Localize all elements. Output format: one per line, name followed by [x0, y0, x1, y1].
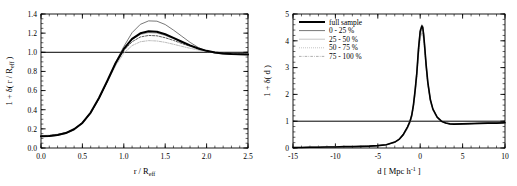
data-curve	[293, 25, 505, 148]
x-tick-label: -5	[375, 152, 382, 161]
left-x-axis-title: r / Reff	[134, 166, 156, 177]
y-tick-label: 1	[285, 117, 289, 126]
x-tick-label: 5	[461, 152, 465, 161]
y-tick-label: 3	[285, 63, 289, 72]
y-tick-label: 0.2	[28, 125, 38, 134]
y-tick-label: 0.0	[28, 144, 38, 153]
right-plot-svg: -15-10-50510012345full sample0 - 25 %25 …	[258, 0, 517, 186]
figure-container: 0.00.51.01.52.02.50.00.20.40.60.81.01.21…	[0, 0, 517, 186]
data-curve	[293, 28, 505, 148]
data-curve	[41, 35, 248, 136]
right-x-axis-title: d [ Mpc h-1 ]	[377, 166, 420, 176]
data-curve	[41, 33, 248, 137]
legend-label-4: 75 - 100 %	[329, 52, 362, 61]
y-tick-label: 4	[285, 37, 289, 46]
y-tick-label: 1.4	[28, 10, 38, 19]
data-curve	[293, 30, 505, 147]
left-plot-panel: 0.00.51.01.52.02.50.00.20.40.60.81.01.21…	[0, 0, 260, 186]
x-tick-label: 0	[418, 152, 422, 161]
left-plot-svg: 0.00.51.01.52.02.50.00.20.40.60.81.01.21…	[0, 0, 260, 186]
y-tick-label: 0.6	[28, 86, 38, 95]
right-plot-frame	[293, 14, 505, 148]
x-tick-label: 2.5	[243, 152, 253, 161]
y-tick-label: 0.4	[28, 106, 38, 115]
x-tick-label: -10	[330, 152, 340, 161]
x-tick-label: 0.0	[36, 152, 46, 161]
data-curve	[41, 41, 248, 136]
x-tick-label: 1.5	[160, 152, 170, 161]
data-curve	[41, 31, 248, 136]
right-plot-panel: -15-10-50510012345full sample0 - 25 %25 …	[258, 0, 517, 186]
y-tick-label: 1.2	[28, 29, 38, 38]
data-curve	[41, 21, 248, 137]
x-tick-label: 2.0	[202, 152, 212, 161]
y-tick-label: 0	[285, 144, 289, 153]
x-tick-label: -15	[288, 152, 298, 161]
left-plot-frame	[41, 14, 248, 148]
y-tick-label: 1.0	[28, 48, 38, 57]
x-tick-label: 1.0	[119, 152, 129, 161]
right-y-axis-title: 1 + δ( d )	[262, 65, 272, 97]
y-tick-label: 2	[285, 90, 289, 99]
y-tick-label: 0.8	[28, 67, 38, 76]
data-curve	[293, 26, 505, 147]
y-tick-label: 5	[285, 10, 289, 19]
data-curve	[293, 33, 505, 148]
x-tick-label: 0.5	[78, 152, 88, 161]
left-y-axis-title: 1 + δ( r / Reff )	[4, 56, 15, 105]
x-tick-label: 10	[501, 152, 509, 161]
